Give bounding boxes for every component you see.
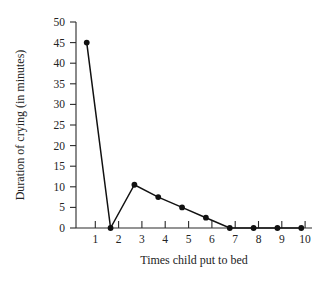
data-point-1	[84, 40, 90, 46]
y-tick-label-35: 35	[54, 78, 66, 90]
data-point-8	[251, 225, 257, 231]
data-point-6	[203, 215, 209, 221]
data-point-5	[179, 205, 185, 211]
x-tick-label-2: 2	[116, 233, 122, 245]
y-axis-title: Duration of crying (in minutes)	[13, 50, 27, 201]
y-tick-label-5: 5	[59, 201, 65, 213]
x-tick-label-3: 3	[139, 233, 145, 245]
x-axis-title: Times child put to bed	[140, 253, 248, 267]
data-point-2	[108, 225, 114, 231]
y-tick-label-25: 25	[54, 119, 66, 131]
y-tick-label-50: 50	[54, 16, 66, 28]
x-tick-label-7: 7	[232, 233, 238, 245]
y-tick-label-0: 0	[59, 222, 65, 234]
x-tick-label-4: 4	[162, 233, 168, 245]
x-tick-label-10: 10	[299, 233, 311, 245]
y-tick-label-30: 30	[54, 98, 66, 110]
y-tick-label-15: 15	[54, 160, 66, 172]
data-point-4	[155, 194, 161, 200]
line-chart-figure: 0 5 10 15 20 25 30 35 40 45 50 1	[0, 0, 326, 283]
x-tick-label-1: 1	[92, 233, 98, 245]
y-tick-label-40: 40	[54, 57, 66, 69]
y-tick-label-10: 10	[54, 181, 66, 193]
data-point-3	[132, 182, 138, 188]
chart-canvas: 0 5 10 15 20 25 30 35 40 45 50 1	[0, 0, 326, 283]
y-tick-label-20: 20	[54, 140, 66, 152]
data-point-10	[298, 225, 304, 231]
x-tick-label-6: 6	[209, 233, 215, 245]
data-point-7	[227, 225, 233, 231]
x-tick-label-8: 8	[256, 233, 262, 245]
data-point-9	[275, 225, 281, 231]
x-tick-label-9: 9	[279, 233, 285, 245]
y-tick-label-45: 45	[54, 37, 66, 49]
x-tick-label-5: 5	[186, 233, 192, 245]
